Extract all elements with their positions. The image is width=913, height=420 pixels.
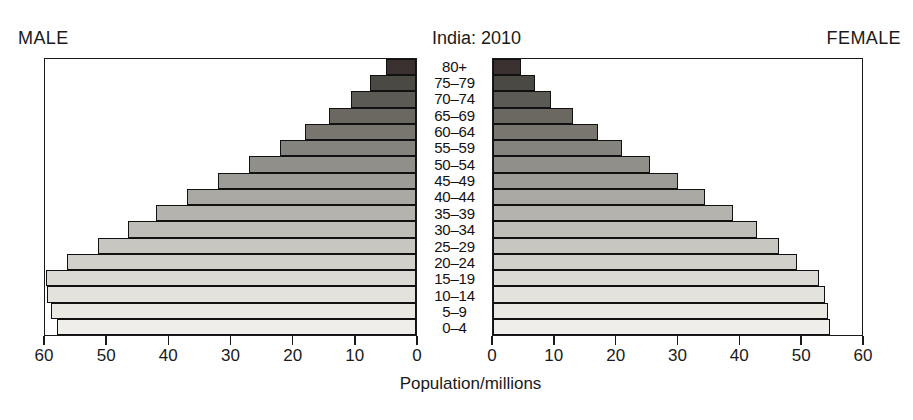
- bar-male-65-69: [329, 108, 416, 124]
- bar-row: [493, 140, 862, 156]
- axis-tick-label: 40: [730, 346, 749, 366]
- age-group-label: 70–74: [417, 91, 492, 107]
- axis-tick-label: 20: [283, 346, 302, 366]
- bar-male-55-59: [280, 140, 416, 156]
- axis-tick-label: 60: [35, 346, 54, 366]
- axis-tick-label: 50: [792, 346, 811, 366]
- bar-female-10-14: [493, 286, 825, 302]
- bar-male-10-14: [47, 286, 416, 302]
- axis-tick-label: 30: [221, 346, 240, 366]
- bar-row: [45, 156, 416, 172]
- bar-female-25-29: [493, 238, 779, 254]
- bar-female-80+: [493, 59, 521, 75]
- axis-tick: [615, 336, 616, 345]
- age-group-label: 45–49: [417, 172, 492, 188]
- age-group-label: 10–14: [417, 287, 492, 303]
- bar-female-55-59: [493, 140, 622, 156]
- axis-tick-label: 30: [668, 346, 687, 366]
- bar-male-80+: [386, 59, 416, 75]
- bar-male-50-54: [249, 156, 416, 172]
- axis-tick-label: 20: [606, 346, 625, 366]
- bar-row: [493, 221, 862, 237]
- bar-male-70-74: [351, 91, 416, 107]
- bar-row: [45, 108, 416, 124]
- bar-male-40-44: [187, 189, 416, 205]
- axis-tick: [354, 336, 355, 345]
- bar-row: [45, 303, 416, 319]
- bar-row: [45, 173, 416, 189]
- bar-female-75-79: [493, 75, 535, 91]
- bar-male-45-49: [218, 173, 416, 189]
- axis-tick: [105, 336, 106, 345]
- age-group-label: 30–34: [417, 221, 492, 237]
- bar-male-20-24: [67, 254, 416, 270]
- bar-row: [493, 319, 862, 335]
- bar-male-60-64: [305, 124, 416, 140]
- axis-tick-label: 0: [487, 346, 496, 366]
- axis-tick-label: 0: [412, 346, 421, 366]
- bar-row: [45, 254, 416, 270]
- bar-female-45-49: [493, 173, 678, 189]
- population-pyramid-chart: MALE India: 2010 FEMALE 0–45–910–1415–19…: [0, 0, 913, 420]
- bar-row: [493, 270, 862, 286]
- age-group-label: 80+: [417, 58, 492, 74]
- axis-tick: [292, 336, 293, 345]
- bar-female-5-9: [493, 303, 828, 319]
- axis-tick: [739, 336, 740, 345]
- bar-row: [45, 189, 416, 205]
- male-bar-group: [45, 59, 416, 335]
- axis-tick-label: 10: [345, 346, 364, 366]
- bar-row: [493, 238, 862, 254]
- bar-row: [493, 254, 862, 270]
- bar-row: [493, 189, 862, 205]
- bar-male-5-9: [51, 303, 416, 319]
- age-group-label: 35–39: [417, 205, 492, 221]
- bar-row: [493, 59, 862, 75]
- bar-row: [45, 75, 416, 91]
- x-axis-title: Population/millions: [0, 374, 913, 394]
- age-group-label: 40–44: [417, 189, 492, 205]
- age-group-label: 5–9: [417, 303, 492, 319]
- bar-row: [45, 91, 416, 107]
- bar-male-30-34: [128, 221, 416, 237]
- bar-female-50-54: [493, 156, 650, 172]
- bar-row: [493, 108, 862, 124]
- axis-tick: [553, 336, 554, 345]
- bar-male-75-79: [370, 75, 416, 91]
- bar-row: [493, 91, 862, 107]
- female-plot-area: [492, 58, 863, 336]
- axis-tick-label: 50: [97, 346, 116, 366]
- axis-tick: [800, 336, 801, 345]
- axis-tick-label: 60: [854, 346, 873, 366]
- female-bar-group: [493, 59, 862, 335]
- age-group-label: 25–29: [417, 238, 492, 254]
- axis-tick: [862, 336, 863, 345]
- age-group-label: 20–24: [417, 254, 492, 270]
- bar-row: [45, 140, 416, 156]
- axis-tick: [168, 336, 169, 345]
- bar-row: [45, 205, 416, 221]
- bar-row: [493, 286, 862, 302]
- bar-row: [45, 124, 416, 140]
- male-plot-area: [44, 58, 417, 336]
- bar-row: [45, 270, 416, 286]
- female-x-axis: 0102030405060: [492, 336, 863, 348]
- axis-tick: [677, 336, 678, 345]
- male-x-axis: 6050403020100: [44, 336, 417, 348]
- bar-male-15-19: [46, 270, 416, 286]
- age-group-label: 0–4: [417, 320, 492, 336]
- age-group-axis: 0–45–910–1415–1920–2425–2930–3435–3940–4…: [417, 58, 492, 336]
- bar-female-70-74: [493, 91, 551, 107]
- bar-row: [45, 286, 416, 302]
- bar-female-35-39: [493, 205, 733, 221]
- bar-female-40-44: [493, 189, 705, 205]
- axis-tick-label: 10: [544, 346, 563, 366]
- bar-female-30-34: [493, 221, 757, 237]
- bar-row: [45, 238, 416, 254]
- axis-tick-label: 40: [159, 346, 178, 366]
- bar-row: [493, 205, 862, 221]
- age-group-label: 75–79: [417, 74, 492, 90]
- bar-row: [493, 303, 862, 319]
- bar-row: [493, 156, 862, 172]
- axis-tick: [43, 336, 44, 345]
